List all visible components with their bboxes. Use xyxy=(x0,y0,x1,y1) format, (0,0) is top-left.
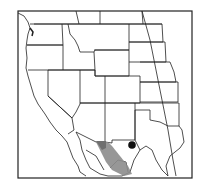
range-map xyxy=(0,0,203,194)
locality-point xyxy=(128,141,136,149)
